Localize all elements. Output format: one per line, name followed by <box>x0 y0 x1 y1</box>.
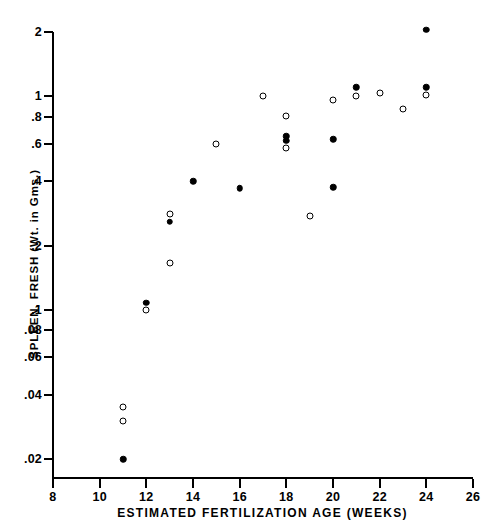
data-point-open <box>213 140 220 147</box>
data-point-open <box>120 404 127 411</box>
data-point-filled <box>190 178 197 185</box>
data-point-open <box>120 418 127 425</box>
data-point-open <box>143 306 150 313</box>
data-point-filled <box>143 299 150 306</box>
data-point-filled <box>353 84 360 91</box>
data-point-open <box>376 89 383 96</box>
data-points-layer <box>0 0 485 528</box>
data-point-open <box>260 93 267 100</box>
data-point-open <box>283 112 290 119</box>
data-point-filled <box>330 136 337 143</box>
data-point-filled <box>330 184 337 191</box>
data-point-filled <box>166 219 173 226</box>
data-point-filled <box>423 84 430 91</box>
data-point-filled <box>120 456 127 463</box>
data-point-filled <box>423 26 430 33</box>
data-point-open <box>423 92 430 99</box>
data-point-open <box>306 212 313 219</box>
data-point-open <box>166 211 173 218</box>
data-point-open <box>283 145 290 152</box>
data-point-open <box>166 260 173 267</box>
data-point-filled <box>236 185 243 192</box>
scatter-plot-figure: SPLEEN, FRESH (Wt. in Gms.) ESTIMATED FE… <box>0 0 485 528</box>
data-point-open <box>353 93 360 100</box>
data-point-filled <box>283 137 290 144</box>
data-point-open <box>330 97 337 104</box>
data-point-open <box>400 106 407 113</box>
